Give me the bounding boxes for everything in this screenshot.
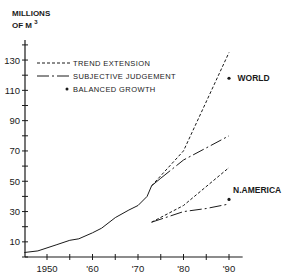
- y-tick-label: 110: [5, 85, 20, 96]
- series-world-historical: [24, 178, 161, 252]
- series-n-america-subjective-judgement: [152, 204, 229, 222]
- legend-label: BALANCED GROWTH: [73, 85, 156, 94]
- x-tick-label: '90: [223, 263, 235, 274]
- y-tick-label: 70: [9, 145, 20, 156]
- y-tick-label: 30: [9, 206, 20, 217]
- series-world-balanced-growth: [227, 77, 230, 80]
- x-tick-label: '70: [132, 263, 144, 274]
- y-tick-label: 50: [9, 176, 20, 187]
- series-n-america-balanced-growth: [227, 198, 230, 201]
- y-axis-title-line1: MILLIONS: [12, 9, 51, 18]
- annotations: WORLDN.AMERICA: [233, 73, 281, 195]
- x-tick-label: '80: [177, 263, 189, 274]
- annotation-n-america: N.AMERICA: [233, 185, 281, 195]
- series-group: [24, 53, 230, 253]
- x-tick-label: '60: [86, 263, 98, 274]
- chart-canvas: MILLIONS OF M 3 10305070901101301950'60'…: [0, 0, 289, 280]
- legend: TREND EXTENSIONSUBJECTIVE JUDGEMENTBALAN…: [37, 59, 176, 94]
- legend-dot-icon: [66, 88, 69, 91]
- y-tick-label: 90: [9, 115, 20, 126]
- annotation-world: WORLD: [238, 73, 270, 83]
- y-tick-label: 130: [4, 55, 20, 66]
- legend-label: SUBJECTIVE JUDGEMENT: [73, 72, 176, 81]
- series-world-subjective-judgement: [161, 136, 229, 178]
- legend-label: TREND EXTENSION: [73, 59, 150, 68]
- x-tick-label: 1950: [36, 263, 57, 274]
- y-axis-title-line2: OF M 3: [12, 19, 38, 30]
- y-tick-label: 10: [9, 236, 20, 247]
